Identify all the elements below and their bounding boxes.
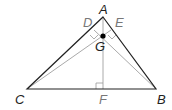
label-B: B bbox=[157, 92, 166, 107]
label-A: A bbox=[98, 2, 108, 17]
right-angle-mark-E bbox=[108, 35, 116, 39]
right-angle-mark-F bbox=[96, 83, 103, 89]
label-C: C bbox=[15, 92, 25, 107]
label-G: G bbox=[95, 39, 105, 54]
label-F: F bbox=[99, 92, 108, 107]
orthocenter-point-G bbox=[100, 33, 105, 38]
triangle-diagram: A D E G C F B bbox=[0, 0, 172, 110]
label-D: D bbox=[83, 15, 92, 30]
label-E: E bbox=[115, 15, 124, 30]
